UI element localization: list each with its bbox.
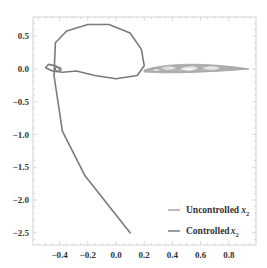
y-tick-label: 0.0	[18, 64, 30, 74]
y-tick-label: −1.0	[13, 130, 30, 140]
y-tick-label: −1.5	[13, 162, 30, 172]
x-tick-label: −0.4	[51, 250, 68, 260]
y-tick-label: −2.0	[13, 195, 30, 205]
y-tick-label: −0.5	[13, 97, 30, 107]
legend-label-controlled: Controlledx2	[186, 226, 239, 238]
x-tick-label: 0.6	[195, 250, 207, 260]
y-axis-tick-labels: 0.50.0−0.5−1.0−1.5−2.0−2.5	[13, 31, 30, 238]
phase-plot: −0.4−0.20.00.20.40.60.8 0.50.0−0.5−1.0−1…	[0, 0, 267, 268]
x-tick-label: 0.8	[223, 250, 235, 260]
y-tick-label: 0.5	[18, 31, 30, 41]
x-axis-tick-labels: −0.4−0.20.00.20.40.60.8	[51, 250, 235, 260]
x-tick-label: 0.4	[167, 250, 179, 260]
y-tick-label: −2.5	[13, 228, 30, 238]
x-tick-label: −0.2	[80, 250, 97, 260]
x-tick-label: 0.0	[110, 250, 122, 260]
x-tick-label: 0.2	[139, 250, 151, 260]
